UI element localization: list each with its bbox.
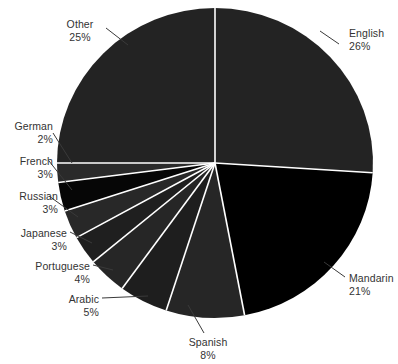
slice-label-russian: Russian3% (0, 190, 58, 215)
slice-label-name: Japanese (0, 227, 67, 240)
slice-label-name: Russian (0, 190, 58, 203)
slice-label-value: 4% (0, 273, 90, 286)
slice-label-name: Portuguese (0, 260, 90, 273)
slice-label-name: Mandarin (349, 272, 394, 285)
slice-label-name: Spanish (158, 336, 258, 349)
slice-label-value: 26% (349, 40, 384, 53)
slice-label-german: German2% (0, 120, 53, 145)
slice-label-value: 25% (30, 31, 130, 44)
slice-label-value: 8% (158, 349, 258, 362)
slice-label-value: 21% (349, 285, 394, 298)
slice-label-name: French (0, 155, 53, 168)
slice-label-name: German (0, 120, 53, 133)
slice-label-value: 3% (0, 168, 53, 181)
slice-label-value: 5% (0, 306, 99, 319)
slice-label-value: 2% (0, 133, 53, 146)
slice-label-french: French3% (0, 155, 53, 180)
slice-label-value: 3% (0, 203, 58, 216)
slice-label-arabic: Arabic5% (0, 293, 99, 318)
slice-label-spanish: Spanish8% (158, 336, 258, 361)
slice-label-name: Arabic (0, 293, 99, 306)
slice-label-mandarin: Mandarin21% (349, 272, 394, 297)
slice-label-value: 3% (0, 240, 67, 253)
leader-line-english (320, 31, 339, 44)
slice-label-other: Other25% (30, 18, 130, 43)
pie-chart-figure: English26%Mandarin21%Spanish8%Arabic5%Po… (0, 0, 398, 364)
slice-label-english: English26% (349, 27, 384, 52)
slice-label-name: Other (30, 18, 130, 31)
slice-label-portuguese: Portuguese4% (0, 260, 90, 285)
slice-label-japanese: Japanese3% (0, 227, 67, 252)
slice-label-name: English (349, 27, 384, 40)
